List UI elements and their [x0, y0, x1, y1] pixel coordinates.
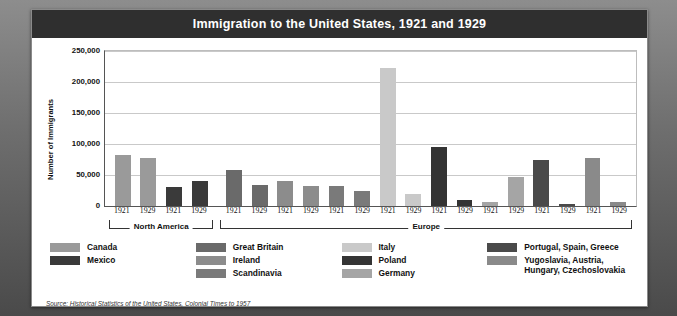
- bar-slot[interactable]: [324, 51, 350, 206]
- plot-canvas: [104, 50, 637, 207]
- legend-item[interactable]: Canada: [50, 242, 196, 252]
- x-axis-tick-label: 1921: [380, 206, 396, 215]
- bar[interactable]: [533, 160, 549, 207]
- legend-item[interactable]: Portugal, Spain, Greece: [487, 242, 633, 252]
- x-axis-tick-label: 1921: [114, 206, 130, 215]
- x-axis-tick-label: 1929: [303, 206, 319, 215]
- legend-label: Poland: [379, 255, 407, 265]
- x-label-slot: 1929: [298, 206, 324, 219]
- y-axis-tick-label: 0: [96, 201, 100, 210]
- x-label-slot: 1929: [606, 206, 632, 219]
- bar-slot[interactable]: [375, 51, 401, 206]
- bar-slot[interactable]: [580, 51, 606, 206]
- x-label-slot: 1929: [401, 206, 427, 219]
- legend-item[interactable]: Poland: [342, 255, 488, 265]
- bar-slot[interactable]: [401, 51, 427, 206]
- legend-column: Great BritainIrelandScandinavia: [196, 242, 342, 281]
- legend-item[interactable]: Italy: [342, 242, 488, 252]
- x-label-slot: 1921: [426, 206, 452, 219]
- x-label-slot: 1921: [221, 206, 247, 219]
- legend-label: Mexico: [87, 255, 115, 265]
- bar[interactable]: [226, 170, 242, 206]
- bar-slot[interactable]: [477, 51, 503, 206]
- legend-item[interactable]: Yugoslavia, Austria, Hungary, Czechoslov…: [487, 255, 633, 275]
- bar-slot[interactable]: [136, 51, 162, 206]
- bar-slot[interactable]: [110, 51, 136, 206]
- chart-title-bar: Immigration to the United States, 1921 a…: [32, 10, 647, 38]
- bar-slot[interactable]: [187, 51, 213, 206]
- legend-label: Portugal, Spain, Greece: [524, 242, 618, 252]
- legend-swatch: [196, 256, 226, 265]
- x-label-slot: 1929: [504, 206, 530, 219]
- bar-slot[interactable]: [503, 51, 529, 206]
- legend-item[interactable]: Ireland: [196, 255, 342, 265]
- bar-slot[interactable]: [349, 51, 375, 206]
- x-label-slot: 1929: [555, 206, 581, 219]
- page-title: Immigration to the United States, 1921 a…: [193, 17, 487, 31]
- bar[interactable]: [303, 186, 319, 206]
- bar-slot[interactable]: [426, 51, 452, 206]
- legend-item[interactable]: Great Britain: [196, 242, 342, 252]
- bar[interactable]: [277, 181, 293, 206]
- x-axis-tick-label: 1921: [277, 206, 293, 215]
- legend-swatch: [196, 269, 226, 278]
- x-label-slot: 1929: [349, 206, 375, 219]
- bar[interactable]: [192, 181, 208, 206]
- bar[interactable]: [140, 158, 156, 206]
- bar-slot[interactable]: [452, 51, 478, 206]
- legend-swatch: [196, 243, 226, 252]
- x-label-slot: 1921: [375, 206, 401, 219]
- legend-swatch: [50, 256, 80, 265]
- bar[interactable]: [115, 155, 131, 206]
- bar[interactable]: [380, 68, 396, 206]
- bar[interactable]: [354, 191, 370, 207]
- bar-slot[interactable]: [161, 51, 187, 206]
- region-brackets: North AmericaEurope: [104, 220, 637, 238]
- x-label-slot: 1929: [452, 206, 478, 219]
- legend-swatch: [487, 256, 517, 265]
- x-label-slot: 1921: [478, 206, 504, 219]
- legend-item[interactable]: Germany: [342, 268, 488, 278]
- bar-slot[interactable]: [605, 51, 631, 206]
- x-label-slot: 1921: [109, 206, 135, 219]
- bar[interactable]: [405, 194, 421, 206]
- legend-item[interactable]: Scandinavia: [196, 268, 342, 278]
- x-label-slot: 1929: [247, 206, 273, 219]
- bar-slot[interactable]: [298, 51, 324, 206]
- x-label-slot: 1921: [160, 206, 186, 219]
- x-axis-tick-label: 1921: [586, 206, 602, 215]
- x-axis-tick-label: 1921: [431, 206, 447, 215]
- y-axis-title-text: Number of Immigrants: [46, 166, 55, 180]
- bar[interactable]: [166, 187, 182, 206]
- bar-slot[interactable]: [273, 51, 299, 206]
- bar-series: [105, 51, 636, 206]
- x-label-slot: 1921: [581, 206, 607, 219]
- x-axis-tick-label: 1921: [534, 206, 550, 215]
- legend-label: Ireland: [233, 255, 260, 265]
- legend-item[interactable]: Mexico: [50, 255, 196, 265]
- region-gap: [212, 206, 221, 219]
- legend-label: Great Britain: [233, 242, 284, 252]
- x-axis-tick-label: 1929: [406, 206, 422, 215]
- bar[interactable]: [508, 177, 524, 206]
- bar[interactable]: [329, 186, 345, 206]
- y-axis-tick-label: 250,000: [72, 46, 100, 55]
- bar[interactable]: [431, 147, 447, 206]
- x-axis-tick-label: 1929: [354, 206, 370, 215]
- bar-slot[interactable]: [554, 51, 580, 206]
- x-axis-tick-label: 1921: [165, 206, 181, 215]
- region-label: Europe: [408, 222, 444, 231]
- bar[interactable]: [252, 185, 268, 206]
- bar-slot[interactable]: [529, 51, 555, 206]
- legend-swatch: [487, 243, 517, 252]
- legend-label: Scandinavia: [233, 268, 282, 278]
- bar-slot[interactable]: [247, 51, 273, 206]
- bar[interactable]: [585, 158, 601, 206]
- x-label-slot: 1929: [135, 206, 161, 219]
- x-axis-tick-label: 1921: [226, 206, 242, 215]
- x-axis-labels: 1921192919211929192119291921192919211929…: [104, 206, 637, 219]
- source-note: Source: Historical Statistics of the Uni…: [46, 300, 250, 307]
- x-axis-tick-label: 1929: [140, 206, 156, 215]
- x-axis-tick-label: 1929: [560, 206, 576, 215]
- bar-slot[interactable]: [221, 51, 247, 206]
